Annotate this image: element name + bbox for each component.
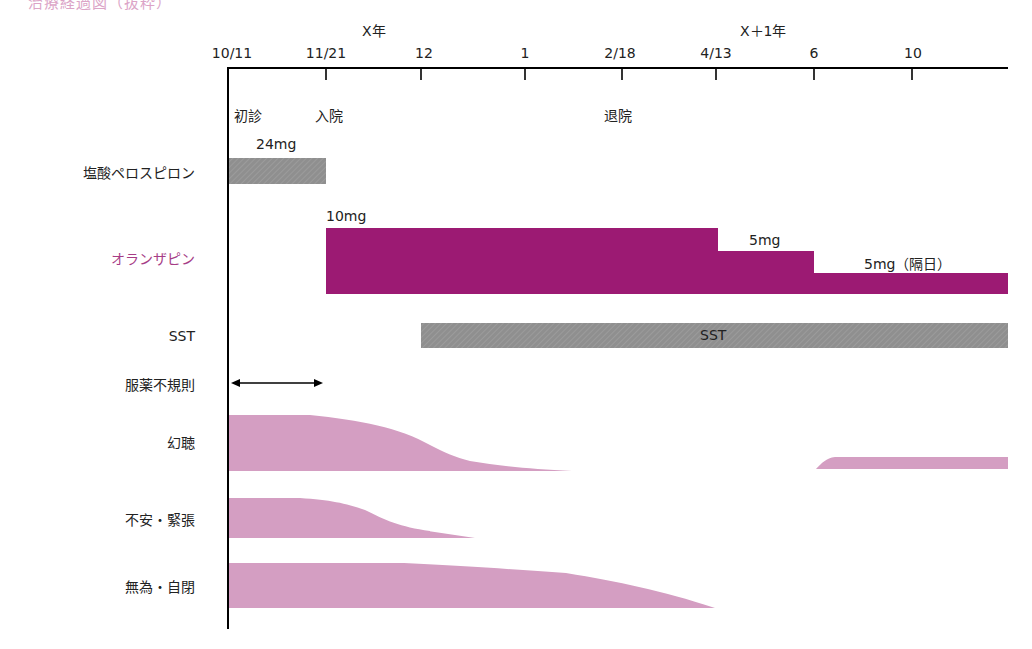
timeline-chart xyxy=(0,0,1032,649)
dose-label-olanzapine-5mg-alternate: 5mg（隔日） xyxy=(864,253,951,273)
hallucination-recurrence-area xyxy=(816,457,1008,469)
sst-bar-label: SST xyxy=(700,327,726,343)
dose-label-perospirone: 24mg xyxy=(256,136,296,152)
anxiety-tension-area-tail xyxy=(428,531,475,538)
irregular-medication-arrow xyxy=(231,379,323,387)
dose-label-olanzapine-10mg: 10mg xyxy=(326,208,366,224)
anxiety-tension-area xyxy=(229,498,430,538)
perospirone-bar xyxy=(229,158,326,184)
dose-label-olanzapine-5mg: 5mg xyxy=(749,232,780,248)
avolition-withdrawal-area xyxy=(229,563,715,608)
hallucination-area xyxy=(229,415,572,471)
